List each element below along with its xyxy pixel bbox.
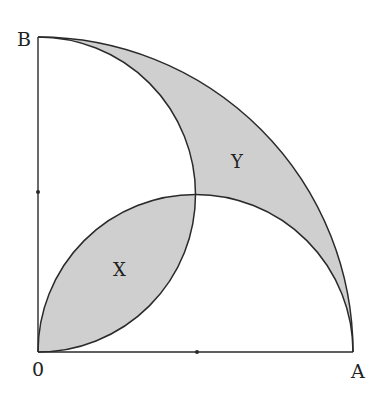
label-b: B (17, 28, 31, 50)
label-region-y: Y (230, 151, 244, 172)
label-a: A (350, 360, 365, 382)
diagram: B 0 A Y X (0, 0, 390, 395)
geometry-figure: B 0 A Y X (0, 0, 390, 395)
label-region-x: X (113, 259, 126, 280)
midpoint-ob-dot (36, 190, 40, 194)
midpoint-oa-dot (195, 350, 199, 354)
label-o: 0 (32, 358, 44, 380)
